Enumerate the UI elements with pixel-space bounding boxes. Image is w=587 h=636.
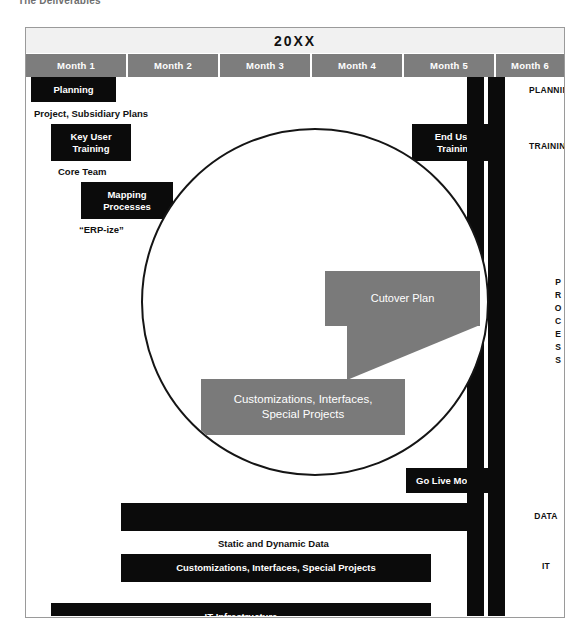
bar-end-user-training[interactable]: End User Training [412,124,499,161]
month-header-cell-3[interactable]: Month 3 [220,54,312,77]
bar-label: Key User Training [66,131,115,155]
callout-cutover-plan[interactable]: Cutover Plan [325,271,480,326]
bar-implementation-secondary[interactable] [488,77,505,616]
page-title: The Deliverables [18,0,101,6]
deliverables-gantt-figure: The Deliverables 20XX Month 1 Month 2 Mo… [0,0,587,636]
caption-static-and-dynamic-data: Static and Dynamic Data [218,538,329,549]
month-label: Month 1 [57,60,95,71]
bar-mapping-processes[interactable]: Mapping Processes [81,182,173,219]
caption-project-subsidiary-plans: Project, Subsidiary Plans [34,108,148,119]
callout-tail-top [325,325,485,385]
phase-label-planning: PLANNING [529,85,563,95]
magnifier-lens[interactable]: Cutover Plan Customizations, Interfaces,… [141,128,489,476]
year-band: 20XX [26,28,564,54]
month-label: Month 4 [338,60,376,71]
phase-label-process: PROCESS [529,277,563,368]
month-header-cell-6[interactable]: Month 6 [496,54,564,77]
month-header-cell-5[interactable]: Month 5 [404,54,496,77]
bar-it-infrastructure[interactable]: IT Infrastructure [51,603,431,616]
month-label: Month 6 [511,60,549,71]
plot-area: Planning Project, Subsidiary Plans Key U… [26,77,564,616]
phase-label-data: DATA [529,511,563,521]
month-header-cell-1[interactable]: Month 1 [26,54,128,77]
year-label: 20XX [274,33,316,49]
month-label: Month 5 [430,60,468,71]
phase-label-it: IT [529,561,563,571]
month-label: Month 3 [246,60,284,71]
bar-customizations-interfaces[interactable]: Customizations, Interfaces, Special Proj… [121,554,431,582]
caption-erp-ize: “ERP-ize” [79,224,124,235]
month-header-cell-4[interactable]: Month 4 [312,54,404,77]
bar-static-and-dynamic-data[interactable] [121,503,469,531]
bar-key-user-training[interactable]: Key User Training [51,124,131,161]
callout-label: Customizations, Interfaces, Special Proj… [234,392,373,422]
month-header-cell-2[interactable]: Month 2 [128,54,220,77]
callout-customizations[interactable]: Customizations, Interfaces, Special Proj… [201,379,405,435]
bar-label: IT Infrastructure [201,611,282,616]
month-label: Month 2 [154,60,192,71]
month-header-row: Month 1 Month 2 Month 3 Month 4 Month 5 … [26,54,564,77]
bar-label: Planning [49,84,97,96]
bar-label: Mapping Processes [99,189,155,213]
callout-label: Cutover Plan [371,291,435,306]
phase-label-training: TRAINING [529,141,563,151]
phase-legend-column: PLANNING TRAINING PROCESS DATA IT [529,77,563,616]
caption-core-team: Core Team [58,166,106,177]
bar-label: Customizations, Interfaces, Special Proj… [172,562,380,574]
chart-frame: 20XX Month 1 Month 2 Month 3 Month 4 Mon… [25,27,565,618]
bar-planning[interactable]: Planning [31,77,116,102]
